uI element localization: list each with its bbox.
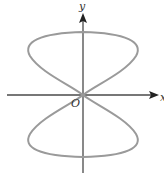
origin-label: O [71,97,80,110]
curve-figure: y x O [0,0,164,173]
y-axis-label: y [78,0,86,13]
x-axis-label: x [160,91,164,104]
